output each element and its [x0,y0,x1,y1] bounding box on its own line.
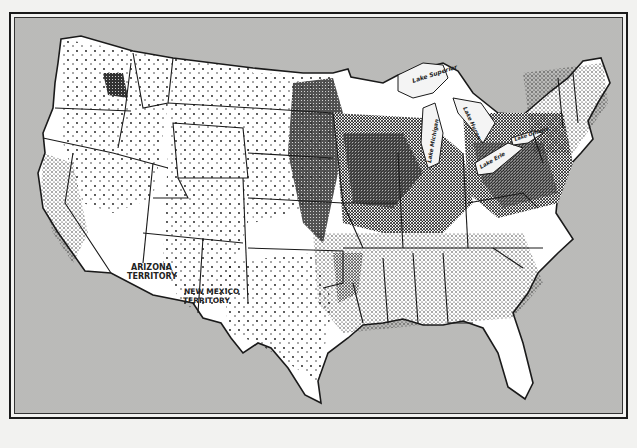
map-frame: ARIZONA TERRITORY NEW MEXICO TERRITORY L… [9,12,628,419]
us-map: ARIZONA TERRITORY NEW MEXICO TERRITORY L… [14,17,623,414]
label-arizona-1: ARIZONA [131,263,173,272]
label-arizona-2: TERRITORY [127,272,177,281]
map-area: ARIZONA TERRITORY NEW MEXICO TERRITORY L… [14,17,623,414]
label-newmexico-1: NEW MEXICO [184,287,239,296]
label-newmexico-2: TERRITORY [183,296,230,305]
